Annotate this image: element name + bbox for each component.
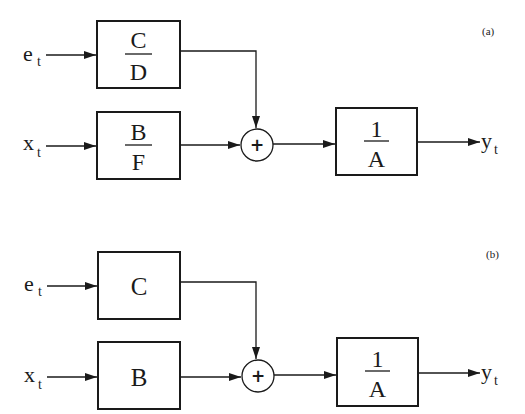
block-numerator: B: [130, 119, 146, 145]
block-b-over-f: B F: [97, 112, 180, 179]
block-1-over-a: 1 A: [336, 108, 417, 175]
arrow-cd-to-sum: [180, 51, 256, 128]
input-e-t-a: e t: [23, 41, 41, 69]
block-c: C: [98, 252, 180, 319]
output-label-sub: t: [494, 373, 498, 388]
block-denominator: A: [369, 376, 387, 402]
block-1-over-a: 1 A: [337, 338, 418, 406]
input-label-base: x: [23, 130, 34, 155]
input-label-base: e: [23, 41, 33, 66]
input-label-sub: t: [38, 284, 42, 299]
block-diagrams: (a) e t C D x t B F: [0, 0, 525, 414]
summing-junction-a: +: [241, 129, 273, 161]
output-label-base: y: [481, 128, 492, 153]
plus-icon: +: [250, 135, 264, 155]
input-label-base: x: [24, 362, 35, 387]
input-label-sub: t: [38, 377, 42, 392]
output-label-sub: t: [494, 142, 498, 157]
block-label: B: [131, 364, 148, 391]
input-label-base: e: [24, 271, 34, 296]
block-denominator: D: [130, 59, 147, 85]
diagram-b: (b) e t C x t B +: [24, 248, 499, 409]
input-x-t-a: x t: [23, 130, 41, 160]
block-c-over-d: C D: [97, 21, 180, 88]
summing-junction-b: +: [242, 360, 274, 392]
input-label-sub: t: [37, 145, 41, 160]
block-numerator: 1: [372, 346, 384, 372]
block-numerator: 1: [371, 116, 383, 142]
plus-icon: +: [251, 366, 265, 386]
input-x-t-b: x t: [24, 362, 42, 392]
input-label-sub: t: [37, 54, 41, 69]
input-e-t-b: e t: [24, 271, 42, 299]
panel-label-a: (a): [482, 25, 495, 38]
block-numerator: C: [130, 27, 146, 53]
arrow-c-to-sum: [180, 282, 256, 359]
diagram-a: (a) e t C D x t B F: [23, 21, 498, 179]
output-y-t-a: y t: [481, 128, 498, 157]
output-y-t-b: y t: [481, 359, 498, 388]
panel-label-b: (b): [486, 248, 499, 261]
block-denominator: F: [132, 149, 145, 175]
block-label: C: [131, 273, 148, 300]
output-label-base: y: [481, 359, 492, 384]
block-denominator: A: [368, 146, 386, 172]
block-b: B: [98, 342, 180, 409]
